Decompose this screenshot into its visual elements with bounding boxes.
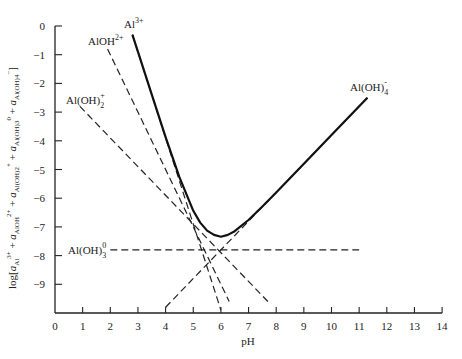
axes <box>55 26 442 313</box>
x-tick-label: 14 <box>437 320 449 332</box>
axis-ticks: 012345678910111213140−1−2−3−4−5−6−7−8−9 <box>33 20 448 332</box>
x-tick-label: 13 <box>409 320 421 332</box>
x-tick-label: 8 <box>273 320 279 332</box>
x-tick-label: 3 <box>135 320 141 332</box>
x-tick-label: 6 <box>218 320 224 332</box>
x-tick-label: 9 <box>301 320 307 332</box>
series-label-al3: Al3+ <box>124 16 144 30</box>
x-axis-title: pH <box>241 335 255 347</box>
x-tick-label: 1 <box>80 320 86 332</box>
total-solubility-curve <box>132 35 367 237</box>
x-tick-label: 11 <box>354 320 365 332</box>
x-tick-label: 4 <box>163 320 169 332</box>
series-label-aloh2: Al(OH)2+ <box>66 91 105 110</box>
y-tick-label: −3 <box>33 106 45 118</box>
y-axis-title: log[aAl3+ + aAlOH2+ + aAl(OH)2+ + aAl(OH… <box>5 67 21 289</box>
y-tick-label: −1 <box>33 49 45 61</box>
species-line-aloh2 <box>80 106 268 301</box>
species-lines <box>80 35 368 311</box>
y-tick-label: −5 <box>33 164 45 176</box>
y-tick-label: −6 <box>33 192 45 204</box>
series-label-aloh2: AlOH2+ <box>88 33 124 47</box>
y-tick-label: −8 <box>33 250 45 262</box>
y-tick-label: −7 <box>33 221 45 233</box>
series-label-aloh30: Al(OH)30 <box>68 241 106 260</box>
x-tick-label: 7 <box>246 320 252 332</box>
y-tick-label: −2 <box>33 77 45 89</box>
x-tick-label: 5 <box>191 320 197 332</box>
total-curve <box>132 35 367 237</box>
x-tick-label: 0 <box>52 320 58 332</box>
x-tick-label: 12 <box>381 320 392 332</box>
x-tick-label: 2 <box>108 320 114 332</box>
y-tick-label: −4 <box>33 135 45 147</box>
series-labels: Al3+AlOH2+Al(OH)2+Al(OH)30Al(OH)4- <box>66 16 388 260</box>
series-label-aloh4: Al(OH)4- <box>350 78 388 97</box>
species-line-aloh2 <box>108 49 230 302</box>
x-tick-label: 10 <box>326 320 338 332</box>
chart: 012345678910111213140−1−2−3−4−5−6−7−8−9 … <box>0 0 462 359</box>
y-tick-label: −9 <box>33 278 45 290</box>
y-axis-title-text: log[aAl3+ + aAlOH2+ + aAl(OH)2+ + aAl(OH… <box>5 67 21 289</box>
y-tick-label: 0 <box>40 20 46 32</box>
